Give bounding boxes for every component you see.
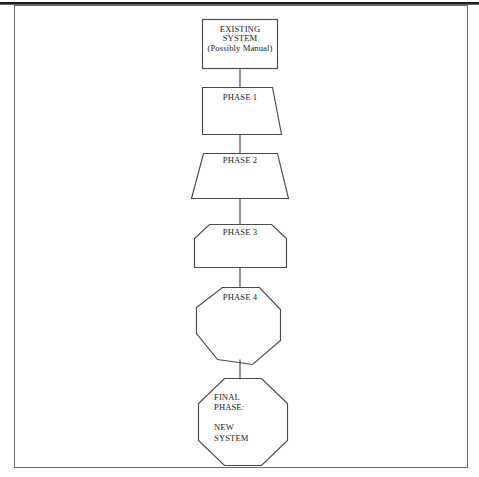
node-label-final-phase: FINAL PHASE: NEW SYSTEM <box>214 392 284 443</box>
node-label-phase-4: PHASE 4 <box>200 293 280 302</box>
node-label-phase-1: PHASE 1 <box>200 93 280 102</box>
node-label-existing-system: EXISTING SYSTEM (Possibly Manual) <box>196 25 284 53</box>
node-label-phase-2: PHASE 2 <box>200 156 280 165</box>
document-page: EXISTING SYSTEM (Possibly Manual) PHASE … <box>0 0 479 477</box>
node-label-phase-3: PHASE 3 <box>200 228 280 237</box>
